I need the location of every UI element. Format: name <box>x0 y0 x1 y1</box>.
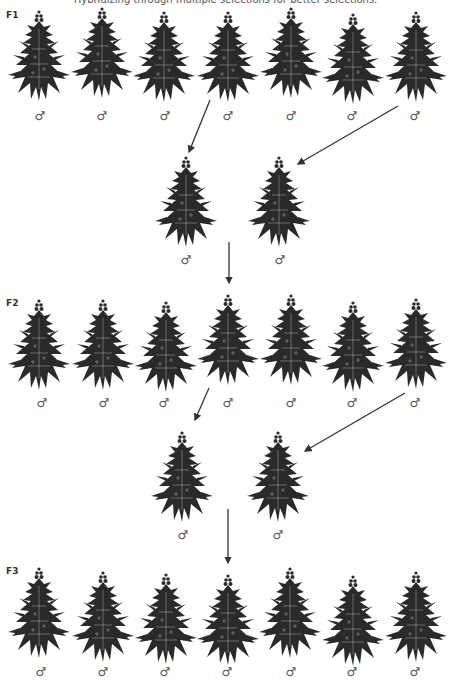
male-symbol-icon: ♂ <box>218 110 238 122</box>
plant-icon-selected <box>385 297 447 389</box>
plant-icon <box>72 570 134 662</box>
plant-icon <box>197 573 259 665</box>
plant-icon <box>71 6 133 98</box>
male-symbol-icon: ♂ <box>93 666 113 678</box>
plant-icon-selected <box>248 155 310 247</box>
male-symbol-icon: ♂ <box>155 666 175 678</box>
plant-icon <box>322 574 384 666</box>
male-symbol-icon: ♂ <box>31 666 51 678</box>
male-symbol-icon: ♂ <box>154 397 174 409</box>
arrow-f2-to-selection-a <box>195 388 209 420</box>
male-symbol-icon: ♂ <box>92 110 112 122</box>
male-symbol-icon: ♂ <box>281 666 301 678</box>
male-symbol-icon: ♂ <box>405 666 425 678</box>
arrow-f1-to-selection-a <box>189 100 210 152</box>
plant-icon-selected <box>197 10 259 102</box>
male-symbol-icon: ♂ <box>405 110 425 122</box>
plant-icon <box>8 9 70 101</box>
male-symbol-icon: ♂ <box>405 397 425 409</box>
plant-icon-selected <box>155 155 217 247</box>
male-symbol-icon: ♂ <box>30 110 50 122</box>
plant-icon-selected <box>385 10 447 102</box>
plant-icon-selected <box>247 430 309 522</box>
plant-icon <box>259 566 321 658</box>
plant-icon <box>8 298 70 390</box>
male-symbol-icon: ♂ <box>342 666 362 678</box>
plant-icon <box>260 6 322 98</box>
male-symbol-icon: ♂ <box>94 397 114 409</box>
male-symbol-icon: ♂ <box>268 529 288 541</box>
plant-icon <box>72 298 134 390</box>
plant-icon <box>135 300 197 392</box>
plant-icon-selected <box>197 293 259 385</box>
male-symbol-icon: ♂ <box>155 110 175 122</box>
male-symbol-icon: ♂ <box>32 397 52 409</box>
diagram-title: Hybridizing through multiple selections … <box>0 0 451 5</box>
male-symbol-icon: ♂ <box>218 397 238 409</box>
male-symbol-icon: ♂ <box>281 110 301 122</box>
male-symbol-icon: ♂ <box>176 254 196 266</box>
plant-icon <box>8 566 70 658</box>
plant-icon <box>135 572 197 664</box>
plant-icon <box>322 300 384 392</box>
plant-icon <box>260 293 322 385</box>
plant-icon-selected <box>151 430 213 522</box>
male-symbol-icon: ♂ <box>270 254 290 266</box>
male-symbol-icon: ♂ <box>281 397 301 409</box>
male-symbol-icon: ♂ <box>342 110 362 122</box>
plant-icon <box>385 570 447 662</box>
male-symbol-icon: ♂ <box>173 529 193 541</box>
plant-icon <box>133 10 195 102</box>
male-symbol-icon: ♂ <box>342 397 362 409</box>
male-symbol-icon: ♂ <box>217 666 237 678</box>
plant-icon <box>322 12 384 104</box>
